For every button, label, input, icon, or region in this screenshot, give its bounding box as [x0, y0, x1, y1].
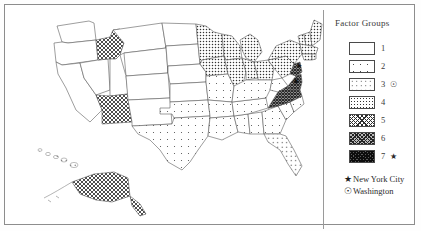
legend-swatch-1 [349, 42, 375, 55]
marker-label-new-york: New York City [353, 174, 404, 184]
city-marker-washington: ◉ [293, 77, 299, 85]
legend-row-1[interactable]: 1 [349, 42, 419, 57]
legend-label-4: 4 [381, 97, 385, 107]
state-FL [264, 134, 302, 176]
legend-row-2[interactable]: 2 [349, 60, 419, 75]
legend-label-5: 5 [381, 115, 385, 125]
circled-dot-icon: ☉ [343, 186, 353, 196]
state-AK-aleutians [44, 182, 72, 202]
state-AZ [96, 94, 132, 124]
svg-text:◉: ◉ [293, 77, 299, 85]
state-WY [124, 48, 168, 76]
legend-mark-7-new-york: ★ [390, 150, 397, 163]
legend-swatch-2 [349, 60, 375, 73]
state-LA [208, 116, 238, 140]
legend-row-7[interactable]: 7 ★ [349, 150, 419, 165]
legend-label-6: 6 [381, 133, 385, 143]
state-AR [208, 100, 234, 118]
legend-row-5[interactable]: 5 [349, 114, 419, 129]
state-CT [302, 54, 312, 60]
legend-swatch-5 [349, 114, 375, 127]
state-MI [240, 34, 262, 62]
legend-title: Factor Groups [335, 18, 389, 28]
state-RI [312, 54, 316, 60]
state-AL [248, 112, 264, 134]
state-CO [126, 73, 170, 100]
state-ME [310, 20, 322, 46]
state-WA [57, 21, 96, 43]
figure-frame: ★ ◉ Factor Groups 1 2 3 ☉ [4, 4, 415, 225]
legend-label-2: 2 [381, 61, 385, 71]
state-WI [222, 34, 242, 60]
legend-swatch-3 [349, 78, 375, 91]
marker-label-washington: Washington [353, 186, 393, 196]
panel-divider [323, 10, 324, 229]
state-HI [38, 149, 78, 168]
state-AK-panhandle [130, 196, 146, 216]
legend-panel: Factor Groups 1 2 3 ☉ 4 [329, 10, 421, 229]
legend-mark-3-washington: ☉ [390, 78, 397, 91]
legend-label-7: 7 [381, 151, 385, 161]
legend-swatch-4 [349, 96, 375, 109]
state-MA [300, 44, 318, 54]
state-NE [168, 64, 206, 84]
star-icon: ★ [343, 174, 353, 184]
legend-swatch-7 [349, 150, 375, 163]
legend-row-3[interactable]: 3 ☉ [349, 78, 419, 93]
legend-label-3: 3 [381, 79, 385, 89]
state-KS [170, 82, 208, 102]
figure-canvas: ★ ◉ Factor Groups 1 2 3 ☉ [0, 0, 421, 231]
state-AK [72, 172, 130, 202]
us-map: ★ ◉ [10, 10, 323, 229]
legend-row-6[interactable]: 6 [349, 132, 419, 147]
marker-legend-new-york: ★New York City [343, 174, 404, 184]
legend-label-1: 1 [381, 43, 385, 53]
svg-text:★: ★ [296, 62, 302, 70]
marker-legend-washington: ☉Washington [343, 186, 393, 196]
legend-row-4[interactable]: 4 [349, 96, 419, 111]
city-marker-new-york: ★ [296, 62, 302, 70]
map-svg: ★ ◉ [10, 10, 323, 229]
legend-swatch-6 [349, 132, 375, 145]
